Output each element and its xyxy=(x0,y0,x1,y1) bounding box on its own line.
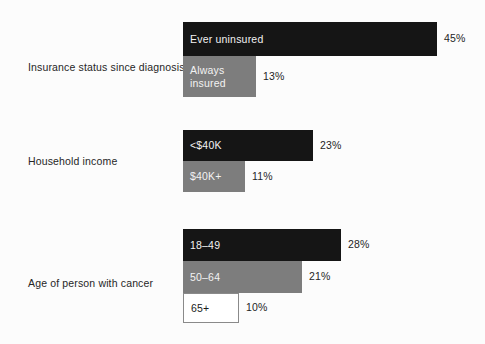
bar: Ever uninsured xyxy=(183,22,437,56)
bar-label: 65+ xyxy=(184,302,209,314)
bar-value-label: 45% xyxy=(444,33,466,44)
bar-chart: Insurance status since diagnosisEver uni… xyxy=(0,0,485,344)
category-label: Household income xyxy=(28,156,117,167)
bar-label: 18–49 xyxy=(183,239,220,251)
bar-value-label: 13% xyxy=(263,71,285,82)
bar: Always insured xyxy=(183,56,256,97)
bar-label: Always insured xyxy=(183,64,226,88)
bar-label: <$40K xyxy=(183,139,222,151)
bar-label: 50–64 xyxy=(183,271,220,283)
bar-value-label: 11% xyxy=(252,171,273,182)
bar-value-label: 10% xyxy=(246,302,268,313)
bar: 50–64 xyxy=(183,261,302,293)
bar: 18–49 xyxy=(183,229,341,261)
bar-value-label: 21% xyxy=(309,271,331,282)
bar-label: $40K+ xyxy=(183,170,222,182)
category-label: Insurance status since diagnosis xyxy=(28,62,185,73)
category-label: Age of person with cancer xyxy=(28,278,153,289)
bar: $40K+ xyxy=(183,161,245,192)
bar-value-label: 23% xyxy=(320,140,342,151)
bar-label: Ever uninsured xyxy=(183,33,263,45)
bar-value-label: 28% xyxy=(348,239,370,250)
bar: 65+ xyxy=(183,293,239,323)
bar: <$40K xyxy=(183,130,313,161)
